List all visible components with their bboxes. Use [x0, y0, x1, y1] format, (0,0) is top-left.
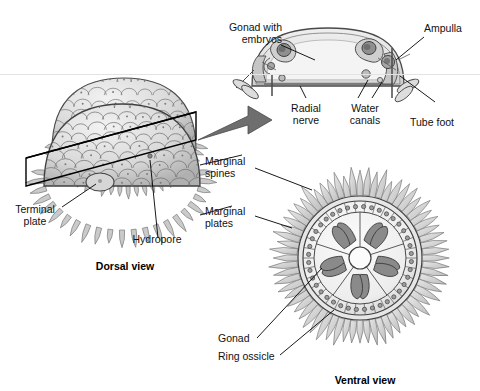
echinoderm-anatomy-figure: Gonad with embryos Ampulla Radial nerve … [0, 0, 480, 391]
scan-artifact-line [0, 74, 480, 75]
label-marginal-spines: Marginal spines [205, 155, 265, 179]
view-transfer-arrow [198, 106, 272, 140]
label-tube-foot: Tube foot [410, 116, 474, 128]
caption-dorsal-view: Dorsal view [80, 260, 170, 272]
label-terminal-plate: Terminal plate [6, 203, 64, 227]
central-disc-shape [349, 247, 371, 269]
label-ampulla: Ampulla [424, 22, 480, 34]
label-ring-ossicle: Ring ossicle [218, 350, 298, 362]
label-water-canals: Water canals [337, 102, 393, 126]
ventral-view [269, 167, 450, 345]
label-marginal-plates: Marginal plates [205, 205, 265, 229]
caption-ventral-view: Ventral view [320, 374, 410, 386]
hydropore-shape [148, 154, 152, 158]
label-radial-nerve: Radial nerve [278, 102, 334, 126]
label-gonad-with-embryos: Gonad with embryos [180, 21, 282, 45]
label-hydropore: Hydropore [122, 233, 192, 245]
label-gonad: Gonad [218, 332, 274, 344]
